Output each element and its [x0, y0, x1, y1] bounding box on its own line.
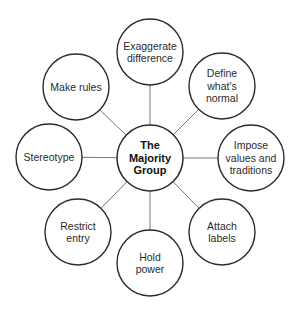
node-label-line: Hold	[139, 251, 161, 263]
connector-line	[173, 182, 199, 209]
connector-line	[100, 110, 126, 135]
node-label-line: Stereotype	[24, 151, 75, 163]
node-label-line: Restrict	[60, 220, 96, 232]
node-stereotype: Stereotype	[16, 124, 82, 190]
node-label-line: what's	[206, 80, 236, 92]
node-label-line: The	[140, 139, 160, 151]
connector-line	[101, 182, 127, 209]
node-label-line: Make rules	[50, 81, 101, 93]
majority-group-diagram: ExaggeratedifferenceDefinewhat'snormalIm…	[0, 0, 297, 312]
node-label-line: Group	[134, 164, 167, 176]
node-exaggerate: Exaggeratedifference	[117, 19, 183, 85]
node-define-normal: Definewhat'snormal	[189, 53, 255, 119]
connector-line	[173, 109, 198, 134]
node-label-line: values and	[226, 152, 277, 164]
node-label-line: Majority	[129, 152, 172, 164]
node-label-line: Define	[207, 67, 238, 79]
node-label-line: entry	[66, 232, 90, 244]
node-label-line: Impose	[234, 139, 269, 151]
node-make-rules: Make rules	[43, 54, 109, 120]
node-label-line: traditions	[230, 164, 273, 176]
center-node: TheMajorityGroup	[117, 125, 183, 191]
node-label-line: power	[136, 263, 165, 275]
node-label-line: normal	[206, 92, 238, 104]
node-label-line: difference	[127, 52, 173, 64]
node-restrict-entry: Restrictentry	[45, 199, 111, 265]
node-hold-power: Holdpower	[117, 230, 183, 296]
node-label-line: Attach	[207, 220, 237, 232]
node-label-line: Exaggerate	[123, 40, 177, 52]
node-label-line: labels	[208, 232, 235, 244]
node-impose-values: Imposevalues andtraditions	[218, 125, 284, 191]
node-attach-labels: Attachlabels	[189, 199, 255, 265]
